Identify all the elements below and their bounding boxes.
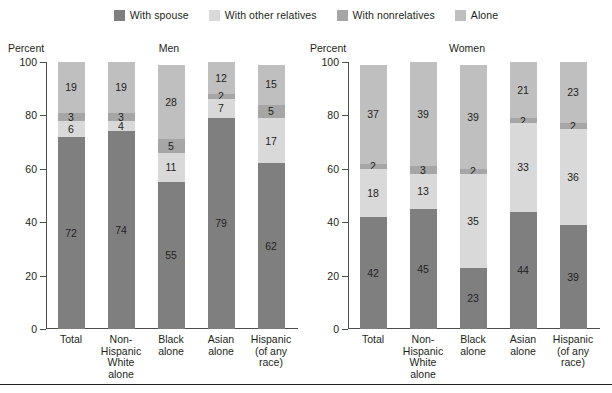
bar-slot-women-0: 4218237 — [348, 62, 398, 329]
y-tick-label-men-20: 20 — [25, 270, 37, 282]
x-axis-label-women-1: Non- Hispanic White alone — [398, 334, 448, 380]
plot-area-men: 100806040200 726319744319551152879721262… — [46, 62, 296, 329]
bar-value-label: 5 — [168, 141, 174, 152]
bar-segment[interactable]: 36 — [560, 129, 587, 225]
bar-slot-men-4: 6217515 — [246, 62, 296, 329]
bar-segment[interactable]: 39 — [410, 62, 437, 166]
y-tick-label-women-100: 100 — [321, 56, 339, 68]
bar-segment[interactable]: 4 — [108, 121, 135, 132]
x-axis-label-women-3: Asian alone — [498, 334, 548, 380]
bar-value-label: 62 — [265, 241, 277, 252]
bar-slot-men-1: 744319 — [96, 62, 146, 329]
legend-item-label: Alone — [471, 10, 498, 21]
bar-value-label: 55 — [165, 250, 177, 261]
bar-value-label: 42 — [367, 268, 379, 279]
bar-slot-women-2: 2335239 — [448, 62, 498, 329]
bar-segment[interactable]: 3 — [108, 113, 135, 121]
bar-segment[interactable]: 19 — [108, 62, 135, 113]
y-tick-label-women-60: 60 — [327, 163, 339, 175]
bar-group-women: 42182374513339233523944332213936223 — [348, 62, 598, 329]
x-axis-labels-men: TotalNon- Hispanic White aloneBlack alon… — [46, 334, 296, 380]
bar-segment[interactable]: 39 — [460, 65, 487, 169]
bar-segment[interactable]: 62 — [258, 163, 285, 329]
x-axis-labels-women: TotalNon- Hispanic White aloneBlack alon… — [348, 334, 598, 380]
x-axis-label-men-0: Total — [46, 334, 96, 380]
panel-title-women: Women — [306, 42, 612, 54]
bar-segment[interactable]: 55 — [158, 182, 185, 329]
bar-value-label: 19 — [115, 82, 127, 93]
bar-value-label: 17 — [265, 136, 277, 147]
bar-segment[interactable]: 21 — [510, 62, 537, 118]
bar-segment[interactable]: 5 — [258, 105, 285, 118]
stacked-bar[interactable]: 6217515 — [258, 62, 285, 329]
stacked-bar[interactable]: 3936223 — [560, 62, 587, 329]
chart-legend: With spouseWith other relativesWith nonr… — [0, 10, 612, 21]
plot-area-women: 100806040200 421823745133392335239443322… — [348, 62, 598, 329]
bar-slot-women-4: 3936223 — [548, 62, 598, 329]
bar-segment[interactable]: 5 — [158, 139, 185, 152]
bar-segment[interactable]: 19 — [58, 62, 85, 113]
bar-slot-men-2: 5511528 — [146, 62, 196, 329]
bar-segment[interactable]: 3 — [410, 166, 437, 174]
bar-value-label: 18 — [367, 188, 379, 199]
bar-segment[interactable]: 23 — [460, 268, 487, 329]
bar-segment[interactable]: 72 — [58, 137, 85, 329]
bar-segment[interactable]: 45 — [410, 209, 437, 329]
x-axis-label-men-4: Hispanic (of any race) — [246, 334, 296, 380]
bar-segment[interactable]: 3 — [58, 113, 85, 121]
bar-segment[interactable]: 12 — [208, 62, 235, 94]
bar-value-label: 28 — [165, 97, 177, 108]
legend-swatch-icon — [209, 10, 220, 21]
legend-item-0[interactable]: With spouse — [114, 10, 189, 21]
bar-slot-women-3: 4433221 — [498, 62, 548, 329]
footer-divider — [0, 384, 612, 385]
y-tick-men-0 — [40, 329, 46, 330]
bar-segment[interactable]: 15 — [258, 65, 285, 105]
bar-segment[interactable]: 7 — [208, 99, 235, 118]
bar-slot-women-1: 4513339 — [398, 62, 448, 329]
legend-item-3[interactable]: Alone — [455, 10, 498, 21]
stacked-bar[interactable]: 726319 — [58, 62, 85, 329]
stacked-bar[interactable]: 4513339 — [410, 62, 437, 329]
bar-segment[interactable]: 33 — [510, 123, 537, 211]
bar-value-label: 45 — [417, 264, 429, 275]
bar-segment[interactable]: 44 — [510, 212, 537, 329]
bar-segment[interactable]: 37 — [360, 65, 387, 164]
bar-segment[interactable]: 13 — [410, 174, 437, 209]
y-tick-label-men-80: 80 — [25, 109, 37, 121]
x-axis-label-women-0: Total — [348, 334, 398, 380]
y-tick-women-0 — [342, 329, 348, 330]
bar-slot-men-0: 726319 — [46, 62, 96, 329]
bar-segment[interactable]: 35 — [460, 174, 487, 267]
bar-segment[interactable]: 18 — [360, 169, 387, 217]
bar-value-label: 12 — [215, 73, 227, 84]
legend-item-1[interactable]: With other relatives — [209, 10, 317, 21]
legend-item-2[interactable]: With nonrelatives — [337, 10, 435, 21]
legend-item-label: With other relatives — [225, 10, 317, 21]
stacked-bar[interactable]: 797212 — [208, 62, 235, 329]
bar-value-label: 13 — [417, 186, 429, 197]
bar-value-label: 74 — [115, 225, 127, 236]
legend-item-label: With nonrelatives — [353, 10, 435, 21]
panel-men: Percent Men 100806040200 726319744319551… — [4, 42, 306, 342]
y-tick-label-women-80: 80 — [327, 109, 339, 121]
bar-value-label: 79 — [215, 218, 227, 229]
bar-segment[interactable]: 74 — [108, 131, 135, 329]
bar-value-label: 39 — [417, 109, 429, 120]
bar-value-label: 37 — [367, 109, 379, 120]
bar-value-label: 21 — [517, 85, 529, 96]
bar-segment[interactable]: 28 — [158, 65, 185, 140]
stacked-bar[interactable]: 2335239 — [460, 62, 487, 329]
bar-segment[interactable]: 11 — [158, 153, 185, 182]
bar-segment[interactable]: 6 — [58, 121, 85, 137]
y-tick-label-women-20: 20 — [327, 270, 339, 282]
stacked-bar[interactable]: 744319 — [108, 62, 135, 329]
bar-segment[interactable]: 79 — [208, 118, 235, 329]
stacked-bar[interactable]: 5511528 — [158, 62, 185, 329]
bar-segment[interactable]: 23 — [560, 62, 587, 123]
stacked-bar[interactable]: 4433221 — [510, 62, 537, 329]
bar-segment[interactable]: 42 — [360, 217, 387, 329]
stacked-bar[interactable]: 4218237 — [360, 62, 387, 329]
bar-segment[interactable]: 17 — [258, 118, 285, 163]
bar-segment[interactable]: 39 — [560, 225, 587, 329]
